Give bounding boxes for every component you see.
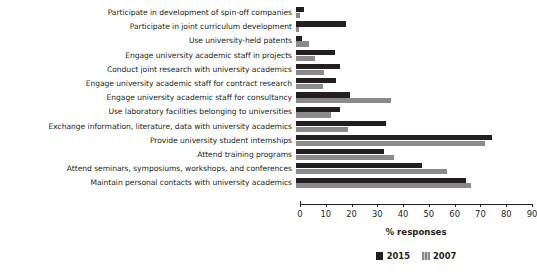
bar-group xyxy=(296,105,530,119)
bar-group xyxy=(296,120,530,134)
x-axis-tick xyxy=(429,204,430,207)
x-axis-tick xyxy=(300,204,301,207)
category-label: Participate in development of spin-off c… xyxy=(0,6,296,20)
chart-row: Engage university academic staff in proj… xyxy=(0,49,534,63)
x-axis-tick xyxy=(532,204,533,207)
legend-swatch-icon xyxy=(422,252,430,260)
chart-row: Attend training programs xyxy=(0,148,534,162)
legend-item: 2007 xyxy=(422,251,456,261)
bar-2015 xyxy=(296,50,335,55)
bar-group xyxy=(296,63,530,77)
legend-item: 2015 xyxy=(376,251,410,261)
bar-2007 xyxy=(296,183,471,188)
bar-2015 xyxy=(296,178,466,183)
chart-row: Engage university academic staff for con… xyxy=(0,77,534,91)
x-axis-tick xyxy=(377,204,378,207)
category-label: Conduct joint research with university a… xyxy=(0,63,296,77)
chart-row: Participate in development of spin-off c… xyxy=(0,6,534,20)
bar-group xyxy=(296,91,530,105)
chart-legend: 20152007 xyxy=(300,251,532,261)
bar-2007 xyxy=(296,169,447,174)
x-axis-tick xyxy=(352,204,353,207)
x-axis-line xyxy=(300,204,532,205)
chart-row: Maintain personal contacts with universi… xyxy=(0,176,534,190)
bar-group xyxy=(296,34,530,48)
bar-2015 xyxy=(296,36,302,41)
bar-2015 xyxy=(296,135,492,140)
bar-group xyxy=(296,162,530,176)
legend-label: 2015 xyxy=(387,251,410,261)
category-label: Use laboratory facilities belonging to u… xyxy=(0,105,296,119)
bar-2015 xyxy=(296,92,350,97)
legend-label: 2007 xyxy=(433,251,456,261)
bar-group xyxy=(296,6,530,20)
bar-2015 xyxy=(296,21,346,26)
bar-2015 xyxy=(296,149,384,154)
bar-2015 xyxy=(296,64,340,69)
bar-2015 xyxy=(296,163,422,168)
bar-2007 xyxy=(296,155,394,160)
x-axis-tick xyxy=(506,204,507,207)
x-axis-tick xyxy=(326,204,327,207)
category-label: Engage university academic staff for con… xyxy=(0,77,296,91)
bar-group xyxy=(296,77,530,91)
category-label: Maintain personal contacts with universi… xyxy=(0,176,296,190)
bar-2015 xyxy=(296,7,304,12)
category-label: Attend seminars, symposiums, workshops, … xyxy=(0,162,296,176)
x-axis-tick-label: 90 xyxy=(527,209,537,219)
bar-2007 xyxy=(296,13,300,18)
bar-2015 xyxy=(296,121,386,126)
bar-2007 xyxy=(296,84,323,89)
legend-swatch-icon xyxy=(376,252,384,260)
chart-row: Provide university student internships xyxy=(0,134,534,148)
chart-row: Use laboratory facilities belonging to u… xyxy=(0,105,534,119)
chart-row: Participate in joint curriculum developm… xyxy=(0,20,534,34)
bar-2015 xyxy=(296,78,336,83)
chart-row: Engage university academic staff for con… xyxy=(0,91,534,105)
bar-2007 xyxy=(296,56,315,61)
x-axis-tick-label: 20 xyxy=(346,209,357,219)
x-axis-title: % responses xyxy=(300,227,532,237)
bar-group xyxy=(296,49,530,63)
x-axis-tick-label: 30 xyxy=(372,209,383,219)
category-label: Participate in joint curriculum developm… xyxy=(0,20,296,34)
bar-2007 xyxy=(296,127,348,132)
x-axis-tick-label: 60 xyxy=(449,209,460,219)
bar-group xyxy=(296,176,530,190)
bar-2007 xyxy=(296,98,391,103)
plot-area: Participate in development of spin-off c… xyxy=(0,6,534,205)
x-axis-tick-label: 10 xyxy=(320,209,331,219)
category-label: Attend training programs xyxy=(0,148,296,162)
x-axis-tick-label: 40 xyxy=(398,209,409,219)
category-label: Provide university student internships xyxy=(0,134,296,148)
chart-row: Conduct joint research with university a… xyxy=(0,63,534,77)
bar-2007 xyxy=(296,41,309,46)
chart-row: Exchange information, literature, data w… xyxy=(0,120,534,134)
x-axis-tick-label: 0 xyxy=(297,209,302,219)
x-axis-tick xyxy=(480,204,481,207)
x-axis-tick xyxy=(403,204,404,207)
x-axis: 0102030405060708090 xyxy=(0,204,534,226)
x-axis-tick-label: 80 xyxy=(501,209,512,219)
x-axis-tick-label: 50 xyxy=(424,209,435,219)
category-label: Use university-held patents xyxy=(0,34,296,48)
bar-2007 xyxy=(296,112,331,117)
bar-group xyxy=(296,20,530,34)
bar-2007 xyxy=(296,141,485,146)
bar-2007 xyxy=(296,70,324,75)
bar-2007 xyxy=(296,27,299,32)
x-axis-tick xyxy=(455,204,456,207)
bar-2015 xyxy=(296,107,340,112)
x-axis-tick-label: 70 xyxy=(475,209,486,219)
bar-group xyxy=(296,134,530,148)
chart-row: Use university-held patents xyxy=(0,34,534,48)
category-label: Engage university academic staff in proj… xyxy=(0,49,296,63)
category-label: Engage university academic staff for con… xyxy=(0,91,296,105)
bar-group xyxy=(296,148,530,162)
chart-row: Attend seminars, symposiums, workshops, … xyxy=(0,162,534,176)
category-label: Exchange information, literature, data w… xyxy=(0,120,296,134)
